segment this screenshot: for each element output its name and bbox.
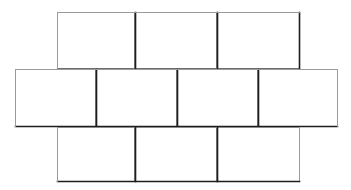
- tile-top-2[interactable]: [136, 13, 217, 69]
- tile-mid-1[interactable]: [16, 70, 96, 127]
- tile-bot-3[interactable]: [218, 128, 300, 182]
- tile-top-1[interactable]: [58, 13, 135, 69]
- tile-bot-1[interactable]: [58, 128, 135, 182]
- top-row-group: [58, 13, 300, 70]
- figure-canvas: [0, 0, 351, 190]
- tile-mid-2[interactable]: [97, 70, 177, 127]
- middle-row-group: [16, 70, 338, 127]
- bottom-row-group: [58, 128, 300, 182]
- tile-mid-4[interactable]: [259, 70, 338, 127]
- tile-mid-3[interactable]: [178, 70, 258, 127]
- tile-top-3[interactable]: [218, 13, 300, 69]
- square-tiling-diagram: [0, 0, 351, 190]
- tile-bot-2[interactable]: [136, 128, 217, 182]
